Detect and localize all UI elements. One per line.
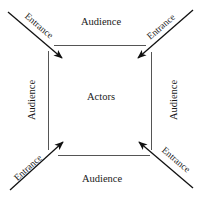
stage-diagram: Actors Audience Audience Audience Audien…: [0, 0, 206, 199]
entrance-top-left-label: Entrance: [23, 11, 55, 40]
entrance-bottom-right-label: Entrance: [160, 145, 192, 174]
entrance-bottom-right: Entrance: [139, 142, 193, 188]
audience-left-label: Audience: [26, 80, 37, 121]
audience-top-label: Audience: [81, 16, 122, 27]
audience-right-label: Audience: [168, 80, 179, 121]
entrance-bottom-left: Entrance: [10, 142, 63, 190]
entrance-top-left: Entrance: [8, 11, 62, 58]
audience-bottom-label: Audience: [82, 173, 123, 184]
actors-label: Actors: [87, 91, 115, 102]
entrance-top-right: Entrance: [138, 10, 193, 58]
entrance-bottom-left-label: Entrance: [12, 153, 44, 183]
